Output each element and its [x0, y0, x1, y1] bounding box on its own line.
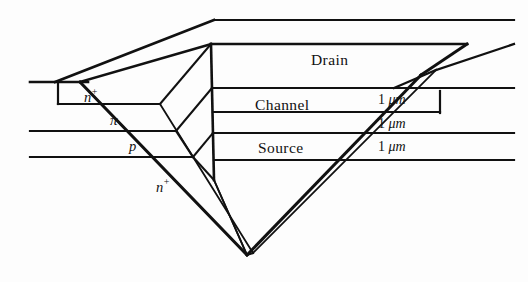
diagram-geometry — [30, 20, 514, 255]
region-label-channel: Channel — [255, 97, 309, 113]
vmos-diagram-figure: Drain Channel Source n+ π p n+ 1 μm 1 μm… — [0, 0, 528, 282]
groove-left-face-line-a — [160, 44, 211, 104]
top-face-near-diagonal — [80, 44, 211, 82]
dimension-first-unit: μm — [389, 92, 406, 107]
groove-left-face-line-b — [176, 88, 212, 131]
dimension-label-third: 1 μm — [378, 140, 406, 154]
n-plus-top-superscript: + — [92, 86, 98, 97]
dimension-third-unit: μm — [389, 139, 406, 154]
right-bevel-short — [394, 70, 436, 88]
groove-left-face-line-c — [193, 133, 213, 157]
groove-left-face-line-e — [193, 157, 214, 180]
n-plus-bottom-base: n — [156, 179, 163, 195]
doping-label-n-plus-bottom: n+ — [156, 178, 169, 194]
dimension-second-value: 1 — [378, 116, 385, 131]
dimension-label-second: 1 μm — [378, 117, 406, 131]
region-label-drain: Drain — [311, 52, 348, 68]
region-label-source: Source — [258, 140, 303, 156]
n-plus-bottom-superscript: + — [164, 176, 170, 187]
dimension-label-first: 1 μm — [378, 93, 406, 107]
doping-label-pi: π — [110, 113, 118, 128]
dimension-second-unit: μm — [389, 116, 406, 131]
groove-rear-facet-left — [214, 180, 247, 255]
dimension-third-value: 1 — [378, 139, 385, 154]
doping-label-n-plus-top: n+ — [84, 88, 97, 104]
n-plus-top-base: n — [84, 89, 91, 105]
dimension-first-value: 1 — [378, 92, 385, 107]
junction-notch-upper — [176, 131, 193, 157]
groove-right-wall-upper-outer — [421, 44, 467, 75]
doping-label-p: p — [129, 139, 136, 154]
